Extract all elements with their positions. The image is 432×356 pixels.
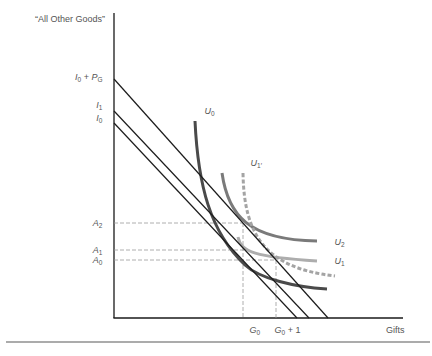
y-axis-title: “All Other Goods” (35, 14, 105, 24)
u0-curve-path (195, 121, 327, 289)
label-a1-sub: 1 (99, 249, 103, 256)
label-a2-sub: 2 (99, 222, 103, 229)
label-g0-plus-1-main: G (275, 325, 282, 335)
label-a0-main: A (92, 255, 99, 265)
indifference-curve-u2 (222, 173, 317, 241)
indifference-curve-u0 (195, 121, 327, 289)
label-a0-sub: 0 (99, 259, 103, 266)
label-u1: U1 (322, 256, 352, 268)
budget-line-i0 (114, 123, 297, 318)
label-i1: I1 (84, 100, 110, 112)
label-u0: U0 (192, 106, 222, 118)
label-i0: I0 (84, 113, 110, 125)
label-a0: A0 (80, 255, 110, 267)
label-u1-prime-sub: 1′ (257, 162, 263, 169)
label-g0-plus-1-suffix: + 1 (285, 325, 300, 335)
label-a1-main: A (92, 245, 99, 255)
label-i0-plus-pg-p-sub: G (97, 76, 102, 83)
label-a2-main: A (92, 218, 99, 228)
label-i1-sub: 1 (99, 104, 103, 111)
label-u2: U2 (322, 237, 352, 249)
budget-line-i1 (114, 111, 309, 318)
label-a2: A2 (80, 218, 110, 230)
label-g0-main: G (250, 325, 257, 335)
indifference-curve-diagram: “All Other Goods” Gifts I0 + PG I1 I0 A2… (0, 0, 432, 356)
x-axis-title: Gifts (386, 325, 405, 335)
label-u1-sub: 1 (341, 260, 345, 267)
label-u1-prime: U1′ (238, 158, 269, 170)
label-i0-sub: 0 (99, 117, 103, 124)
label-i0-plus-pg: I0 + PG (62, 72, 110, 84)
u2-curve-path (222, 173, 317, 241)
label-i0-plus-pg-plus: + (81, 72, 91, 82)
label-g0-sub: 0 (257, 329, 261, 336)
label-u2-sub: 2 (341, 241, 345, 248)
label-u0-sub: 0 (211, 110, 215, 117)
label-g0-plus-1: G0 + 1 (262, 325, 308, 336)
